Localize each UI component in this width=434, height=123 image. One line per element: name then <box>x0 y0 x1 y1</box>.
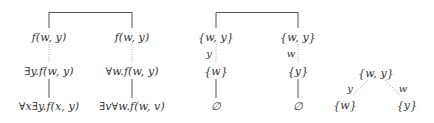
tree1-left-node-2: ∃y.f(w, y) <box>24 66 73 77</box>
tree1-bracket <box>49 13 132 29</box>
tree2-bracket <box>216 13 298 29</box>
tree2-left-edge-label: y <box>206 49 212 59</box>
tree2-left-node-3: ∅ <box>211 101 221 112</box>
tree1-right-node-1: f(w, y) <box>115 32 150 43</box>
tree3-right-child-node: {y} <box>397 100 418 111</box>
tree3-right-edge-label: w <box>399 84 408 94</box>
tree1-left-node-3: ∀x∃y.f(x, y) <box>19 101 79 112</box>
tree2-right-edge-label: w <box>287 49 296 59</box>
tree2-right-node-2: {y} <box>288 66 309 77</box>
tree3-left-dotted-edge <box>352 80 368 96</box>
tree2-right-node-1: {w, y} <box>280 32 316 43</box>
tree3-left-child-node: {w} <box>333 100 357 111</box>
tree1-right-node-3: ∃v∀w.f(w, v) <box>99 101 165 112</box>
tree2-right-node-3: ∅ <box>293 101 303 112</box>
tree2-left-node-2: {w} <box>204 66 228 77</box>
tree1-left-node-1: f(w, y) <box>32 32 67 43</box>
tree3-root-node: {w, y} <box>358 68 394 79</box>
tree1-right-node-2: ∀w.f(w, y) <box>105 66 158 77</box>
tree2-left-node-1: {w, y} <box>198 32 234 43</box>
tree3-left-edge-label: y <box>347 84 353 94</box>
